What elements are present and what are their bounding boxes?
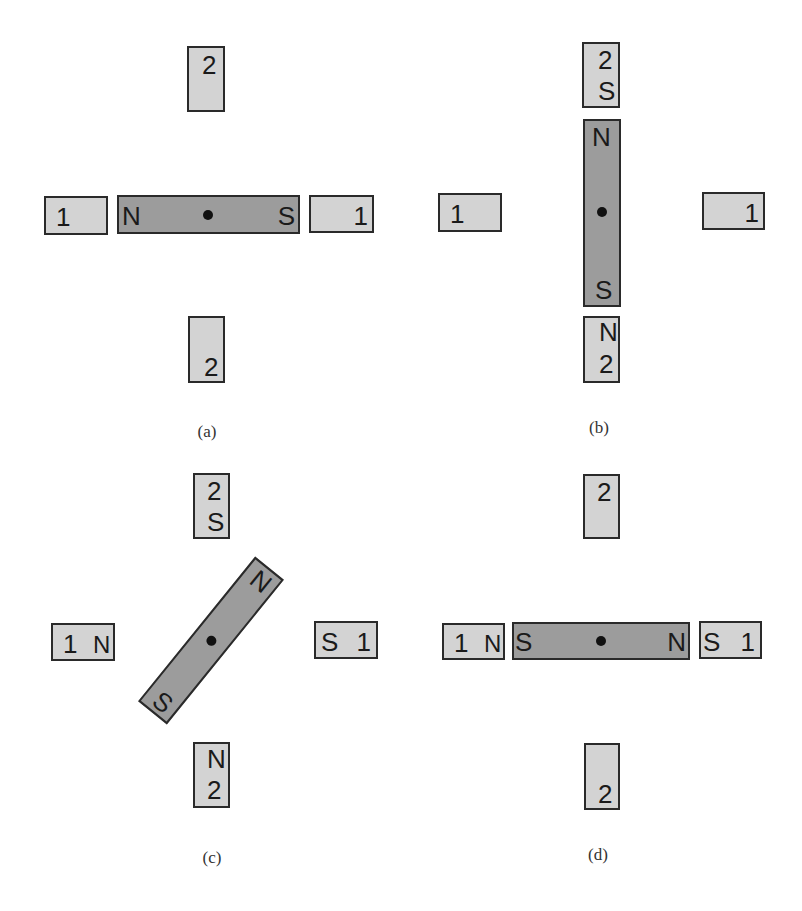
caption-d: (d) [588,845,608,865]
pole-number: 1 [450,201,464,227]
pole-number: 1 [454,630,468,656]
pole-right: S 1 [699,621,762,659]
pole-polarity: S [598,78,615,104]
pole-polarity: S [207,509,224,535]
pole-polarity: S [321,629,338,655]
pole-left: 1 N [51,623,115,661]
pole-number: 2 [207,777,221,803]
pole-number: 2 [202,52,216,78]
pole-polarity: N [207,746,226,772]
pole-number: 2 [597,479,611,505]
pole-top: 2 S [193,473,230,539]
rotor-end-lower-left: S [148,687,178,718]
pole-number: 1 [357,629,371,655]
pivot-dot [204,634,218,648]
rotor-end-left: S [515,629,532,655]
pole-bottom: 2 [188,316,225,383]
pole-left: 1 N [442,623,505,660]
pole-number: 1 [745,200,759,226]
pole-polarity: S [703,629,720,655]
rotor-end-top: N [592,124,611,150]
pole-left: 1 [438,193,502,232]
rotor-end-left: N [122,203,141,229]
pole-number: 2 [599,351,613,377]
pole-left: 1 [44,196,108,235]
pivot-dot [203,210,213,220]
pole-right: 1 [702,192,765,230]
rotor: N S [583,119,621,307]
pole-right: S 1 [314,621,378,659]
pole-right: 1 [309,195,374,233]
pole-number: 1 [354,203,368,229]
rotor: S N [512,622,690,660]
pole-number: 2 [598,47,612,73]
pivot-dot [597,207,607,217]
rotor-end-right: N [667,629,686,655]
rotor-end-right: S [278,203,295,229]
pole-polarity: N [599,319,618,345]
pole-bottom: N 2 [193,742,230,808]
pole-bottom: 2 [584,743,620,810]
rotor: S N [138,557,284,725]
pole-polarity: N [484,631,501,657]
stepper-motor-diagram: 2 1 N S 1 2 (a) 2 S 1 N S [0,0,802,911]
pole-number: 2 [204,354,218,380]
pole-number: 1 [63,631,77,657]
pole-number: 1 [56,204,70,230]
pivot-dot [596,636,606,646]
rotor-end-bottom: S [595,277,612,303]
pole-top: 2 S [582,42,620,108]
pole-polarity: N [93,632,110,658]
pole-number: 2 [598,781,612,807]
rotor-end-upper-right: N [246,565,277,597]
pole-number: 2 [207,478,221,504]
caption-b: (b) [589,418,609,438]
caption-c: (c) [203,848,222,868]
pole-number: 1 [741,629,755,655]
rotor: N S [117,195,300,234]
pole-top: 2 [583,474,620,539]
caption-a: (a) [198,422,217,442]
pole-top: 2 [187,46,225,112]
pole-bottom: N 2 [583,316,620,383]
